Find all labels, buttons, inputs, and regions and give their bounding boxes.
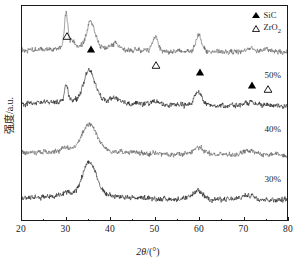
- x-tick-80: [288, 217, 289, 221]
- legend: SiC ZrO2: [252, 11, 281, 34]
- x-tick-20: [21, 217, 22, 221]
- x-tick-label-60: 60: [194, 224, 204, 234]
- filled-triangle-icon: [252, 12, 260, 18]
- x-minor-tick-55: [177, 219, 178, 222]
- x-tick-60: [199, 217, 200, 221]
- curve-30pct: [22, 122, 287, 157]
- x-tick-40: [110, 217, 111, 221]
- peak-marker-sic-1: [87, 39, 96, 57]
- x-minor-tick-45: [132, 219, 133, 222]
- x-minor-tick-75: [266, 219, 267, 222]
- peak-marker-sic-4: [248, 75, 257, 93]
- legend-item-zro2: ZrO2: [252, 23, 281, 34]
- x-tick-label-80: 80: [283, 224, 293, 234]
- series-label-40pct: 40%: [265, 124, 282, 134]
- xrd-figure: 50%40%30%20% SiC ZrO2 20304050607080 2θ/…: [0, 0, 296, 259]
- x-tick-label-30: 30: [61, 224, 71, 234]
- curve-20pct: [22, 161, 287, 203]
- legend-item-sic: SiC: [252, 11, 281, 20]
- x-minor-tick-35: [88, 219, 89, 222]
- series-label-20pct: 20%: [265, 219, 282, 221]
- x-tick-50: [155, 217, 156, 221]
- peak-marker-zro2-0: [62, 26, 71, 44]
- legend-label-sic: SiC: [264, 11, 277, 20]
- y-axis-title: 强度/a.u.: [1, 61, 16, 171]
- x-minor-tick-25: [43, 219, 44, 222]
- series-label-30pct: 30%: [265, 174, 282, 184]
- x-tick-label-70: 70: [239, 224, 249, 234]
- x-tick-label-40: 40: [105, 224, 115, 234]
- peak-marker-zro2-2: [152, 55, 161, 73]
- x-tick-30: [66, 217, 67, 221]
- series-label-50pct: 50%: [265, 70, 282, 80]
- x-minor-tick-65: [221, 219, 222, 222]
- x-tick-70: [244, 217, 245, 221]
- peak-marker-sic-3: [196, 62, 205, 80]
- open-triangle-icon: [252, 25, 260, 32]
- x-tick-label-50: 50: [150, 224, 160, 234]
- legend-label-zro2: ZrO2: [264, 23, 281, 34]
- peak-marker-zro2-5: [263, 79, 272, 97]
- plot-area: 50%40%30%20% SiC ZrO2: [21, 5, 288, 221]
- x-axis-title: 2θ/(°): [0, 246, 296, 257]
- x-tick-label-20: 20: [16, 224, 26, 234]
